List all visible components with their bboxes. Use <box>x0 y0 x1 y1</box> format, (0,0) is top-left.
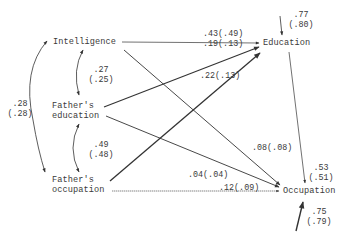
node-fathers-occupation-line2: occupation <box>52 185 105 195</box>
coef-fathers-education-occupation: .04(.04) <box>188 170 228 180</box>
corr-fedu-focc-alt: (.48) <box>87 150 115 160</box>
corr-arrow-intelligence-fathers-occupation <box>30 41 47 172</box>
coef-fathers-occupation-education: .22(.13) <box>200 71 240 81</box>
node-education: Education <box>263 38 310 48</box>
coef-intelligence-occupation: .08(.08) <box>252 143 292 153</box>
corr-arrow-intelligence-fathers-education <box>76 50 83 95</box>
coef-intelligence-education: .43(.49) <box>203 29 243 39</box>
coef-fathers-occupation-occupation: .12(.09) <box>219 183 259 193</box>
residual-education-alt: (.80) <box>287 20 315 30</box>
residual-education-value: .77 <box>290 10 312 20</box>
coef-education-occupation-alt: (.51) <box>307 173 335 183</box>
coef-education-occupation-value: .53 <box>310 163 332 173</box>
corr-fedu-focc-value: .49 <box>89 140 113 150</box>
corr-intel-fedu-value: .27 <box>89 65 113 75</box>
residual-arrow-occupation <box>296 202 303 231</box>
coef-fathers-education-education: .19(.13) <box>203 39 243 49</box>
corr-intel-fedu-alt: (.25) <box>87 75 115 85</box>
corr-intel-focc-alt: (.28) <box>6 109 34 119</box>
node-fathers-education-line2: education <box>52 111 99 121</box>
node-occupation: Occupation <box>283 186 336 196</box>
residual-occupation-value: .75 <box>308 207 330 217</box>
path-education-to-occupation <box>289 52 305 183</box>
residual-occupation-alt: (.79) <box>305 217 333 227</box>
residual-arrow-education <box>280 16 282 35</box>
node-fathers-education-line1: Father's <box>52 101 94 111</box>
node-intelligence: Intelligence <box>53 37 116 47</box>
node-fathers-occupation-line1: Father's <box>52 175 94 185</box>
corr-intel-focc-value: .28 <box>8 99 32 109</box>
corr-arrow-fathers-education-fathers-occupation <box>73 124 79 172</box>
